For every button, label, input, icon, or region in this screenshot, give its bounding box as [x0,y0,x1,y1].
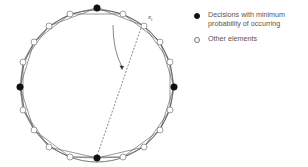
element-node [167,107,173,113]
element-node [31,127,37,133]
element-node [120,11,126,17]
dashed-chord [97,28,141,156]
element-node [167,59,173,65]
legend: Decisions with minimum probability of oc… [194,10,306,49]
filled-circle-icon [194,13,200,19]
element-node [67,154,73,160]
element-node [120,154,126,160]
x-label: xi [148,13,153,22]
open-circle-icon [194,37,200,43]
element-node [141,23,147,29]
element-node [46,144,52,150]
decision-node [171,84,177,90]
zigzag-polygon [20,8,174,158]
element-node [20,107,26,113]
curved-arrow [113,25,122,67]
legend-label: Decisions with minimum probability of oc… [208,10,306,28]
element-node [46,23,52,29]
element-node [31,39,37,45]
decision-node [94,5,100,11]
legend-item-other: Other elements [194,34,306,43]
element-node [157,39,163,45]
element-node [141,144,147,150]
decision-node [17,84,23,90]
element-node [157,127,163,133]
legend-item-decisions: Decisions with minimum probability of oc… [194,10,306,28]
element-node [67,11,73,17]
arrow-head-icon [120,66,125,71]
decision-node [94,155,100,161]
legend-label: Other elements [208,34,257,43]
element-node [20,59,26,65]
